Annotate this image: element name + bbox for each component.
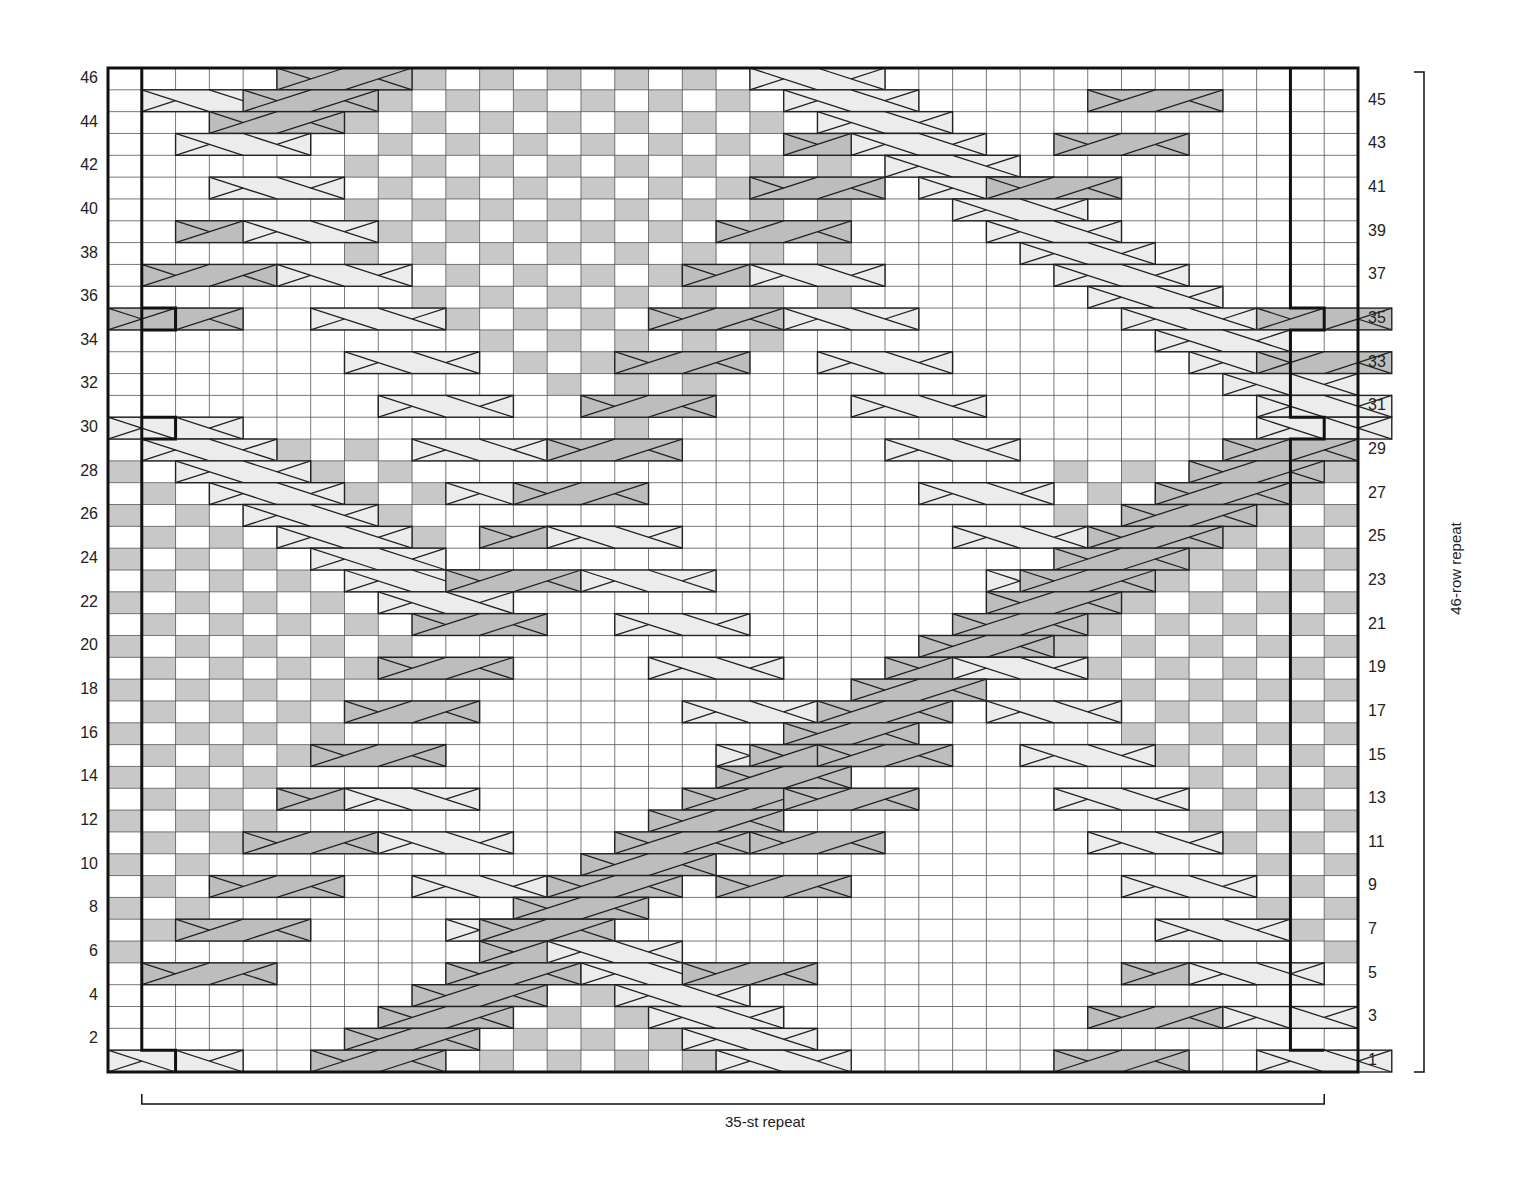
right-cross-cable [953, 526, 1088, 548]
row-number: 8 [58, 898, 98, 916]
left-cross-cable [378, 657, 513, 679]
row-number: 33 [1368, 353, 1408, 371]
right-cross-cable [412, 876, 547, 898]
right-cross-cable [176, 461, 311, 483]
right-cross-cable [615, 614, 750, 636]
right-cross-cable [649, 657, 784, 679]
row-number: 11 [1368, 833, 1408, 851]
left-cross-cable [615, 832, 750, 854]
row-number: 17 [1368, 702, 1408, 720]
stitch-repeat-label: 35-st repeat [665, 1113, 865, 1130]
left-cross-cable [176, 919, 311, 941]
row-number: 28 [58, 462, 98, 480]
row-number: 29 [1368, 440, 1408, 458]
right-cross-cable [581, 570, 716, 592]
left-cross-cable [649, 308, 784, 330]
right-cross-cable [1155, 330, 1290, 352]
row-number: 43 [1368, 134, 1408, 152]
right-cross-cable [1088, 286, 1223, 308]
left-cross-cable [716, 876, 851, 898]
left-cross-cable [209, 876, 344, 898]
right-cross-cable [1122, 876, 1257, 898]
row-number: 40 [58, 200, 98, 218]
row-number: 23 [1368, 571, 1408, 589]
left-cross-cable [1054, 548, 1189, 570]
right-cross-cable [243, 505, 378, 527]
right-cross-cable [750, 264, 885, 286]
row-number: 22 [58, 593, 98, 611]
right-cross-cable [209, 483, 344, 505]
left-cross-cable [919, 635, 1054, 657]
right-cross-cable [817, 112, 952, 134]
left-cross-cable [953, 614, 1088, 636]
left-cross-cable [547, 439, 682, 461]
row-number: 37 [1368, 265, 1408, 283]
knitting-chart [0, 0, 1521, 1183]
left-cross-cable [446, 570, 581, 592]
left-cross-cable [243, 832, 378, 854]
left-cross-cable [817, 701, 952, 723]
right-cross-cable [885, 155, 1020, 177]
row-repeat-label: 46-row repeat [1447, 494, 1464, 644]
row-number: 27 [1368, 484, 1408, 502]
left-cross-cable [750, 177, 885, 199]
left-cross-cable [851, 679, 986, 701]
row-number: 4 [58, 986, 98, 1004]
left-cross-cable [986, 592, 1121, 614]
right-cross-cable [412, 439, 547, 461]
row-number: 5 [1368, 964, 1408, 982]
left-cross-cable [480, 919, 615, 941]
row-number: 1 [1368, 1051, 1408, 1069]
left-cross-cable [378, 1007, 513, 1029]
left-cross-cable [243, 90, 378, 112]
right-cross-cable [716, 1050, 851, 1072]
left-cross-cable [581, 395, 716, 417]
left-cross-cable [344, 1028, 479, 1050]
row-number: 39 [1368, 222, 1408, 240]
left-cross-cable [1088, 1007, 1223, 1029]
right-cross-cable [142, 439, 277, 461]
right-cross-cable [277, 264, 412, 286]
left-cross-cable [344, 701, 479, 723]
row-number: 45 [1368, 91, 1408, 109]
row-number: 24 [58, 549, 98, 567]
right-cross-cable [378, 832, 513, 854]
row-number: 30 [58, 418, 98, 436]
left-cross-cable [209, 112, 344, 134]
row-number: 34 [58, 331, 98, 349]
right-cross-cable [1189, 963, 1324, 985]
right-cross-cable [851, 395, 986, 417]
right-cross-cable [817, 352, 952, 374]
right-cross-cable [344, 788, 479, 810]
row-number: 19 [1368, 658, 1408, 676]
right-cross-cable [547, 526, 682, 548]
right-cross-cable [953, 657, 1088, 679]
right-cross-cable [176, 133, 311, 155]
left-cross-cable [581, 854, 716, 876]
right-cross-cable [1155, 919, 1290, 941]
left-cross-cable [547, 876, 682, 898]
right-cross-cable [784, 308, 919, 330]
left-cross-cable [784, 723, 919, 745]
row-number: 6 [58, 942, 98, 960]
left-cross-cable [311, 745, 446, 767]
left-cross-cable [750, 832, 885, 854]
right-cross-cable [682, 1028, 817, 1050]
left-cross-cable [615, 352, 750, 374]
row-number: 32 [58, 374, 98, 392]
right-cross-cable [750, 68, 885, 90]
right-cross-cable [953, 199, 1088, 221]
right-cross-cable [311, 548, 446, 570]
row-number: 31 [1368, 396, 1408, 414]
right-cross-cable [547, 941, 682, 963]
right-cross-cable [1054, 788, 1189, 810]
row-number: 15 [1368, 746, 1408, 764]
row-number: 44 [58, 113, 98, 131]
left-cross-cable [1088, 526, 1223, 548]
row-number: 36 [58, 287, 98, 305]
right-cross-cable [851, 133, 986, 155]
left-cross-cable [1020, 570, 1155, 592]
right-cross-cable [986, 221, 1121, 243]
left-cross-cable [1054, 1050, 1189, 1072]
row-number: 18 [58, 680, 98, 698]
